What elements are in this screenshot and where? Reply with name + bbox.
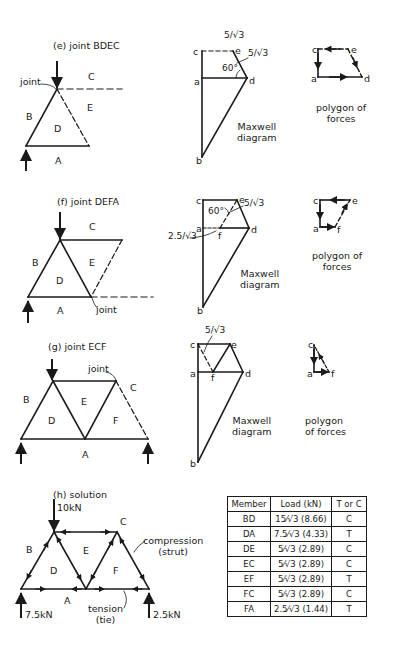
polygon-e-point-d: d	[364, 74, 370, 84]
maxwell-g-value-top: 5/√3	[205, 326, 225, 335]
space-label-d-g: D	[48, 416, 55, 426]
maxwell-f	[190, 200, 249, 307]
cell-member: BD	[228, 512, 271, 527]
maxwell-g-point-c: c	[190, 340, 195, 350]
cell-member: DA	[228, 527, 271, 542]
maxwell-f-point-c: c	[196, 196, 201, 206]
polygon-g	[314, 345, 329, 372]
maxwell-f-point-b: b	[197, 306, 203, 316]
space-label-d-f: D	[56, 276, 63, 286]
space-label-b-f: B	[32, 258, 39, 268]
table-row: DA 7.5⁄√3 (4.33) T	[228, 527, 367, 542]
table-row: FA 2.5⁄√3 (1.44) T	[228, 602, 367, 617]
reaction-right-label: 2.5kN	[153, 610, 181, 620]
polygon-f-point-c: c	[313, 196, 318, 206]
maxwell-e-angle: 60°	[222, 64, 238, 73]
space-label-c-e: C	[88, 72, 95, 82]
polygon-e-point-e: e	[351, 45, 357, 55]
space-label-a-h: A	[64, 596, 71, 606]
load-label-top: 10kN	[57, 503, 82, 513]
space-label-a-f: A	[57, 306, 64, 316]
maxwell-f-caption: Maxwell diagram	[240, 268, 280, 291]
space-label-d-e: D	[54, 124, 61, 134]
table-header-row: Member Load (kN) T or C	[228, 497, 367, 512]
space-label-a-e: A	[55, 156, 62, 166]
maxwell-f-value-right: 5/√3	[244, 199, 264, 208]
cell-load: 5⁄√3 (2.89)	[271, 557, 332, 572]
truss-h	[21, 500, 149, 617]
space-label-f-h: F	[113, 566, 118, 576]
space-label-c-h: C	[120, 517, 127, 527]
table-row: BD 15⁄√3 (8.66) C	[228, 512, 367, 527]
maxwell-e-point-d: d	[249, 76, 255, 86]
maxwell-g-point-a: a	[190, 369, 196, 379]
cell-member: DE	[228, 542, 271, 557]
space-label-e-f: E	[89, 258, 95, 268]
polygon-g-caption: polygon of forces	[305, 415, 346, 438]
reaction-left-label: 7.5kN	[25, 610, 53, 620]
cell-type: T	[332, 527, 367, 542]
cell-load: 15⁄√3 (8.66)	[271, 512, 332, 527]
maxwell-e-value-top: 5/√3	[224, 31, 244, 40]
maxwell-g	[198, 336, 243, 462]
maxwell-e-point-a: a	[194, 77, 200, 87]
maxwell-g-caption: Maxwell diagram	[232, 415, 272, 438]
maxwell-g-point-e: e	[231, 340, 237, 350]
space-label-c-f: C	[89, 222, 96, 232]
maxwell-e-point-e: e	[235, 46, 241, 56]
table-row: EC 5⁄√3 (2.89) C	[228, 557, 367, 572]
space-label-d-h: D	[50, 566, 57, 576]
polygon-f-point-f: f	[337, 225, 340, 235]
space-label-a-g: A	[82, 450, 89, 460]
polygon-f	[320, 200, 350, 227]
table-row: DE 5⁄√3 (2.89) C	[228, 542, 367, 557]
polygon-f-point-a: a	[313, 224, 319, 234]
space-label-e-h: E	[83, 546, 89, 556]
section-f-title: (f) joint DEFA	[57, 197, 119, 207]
maxwell-f-point-d: d	[251, 225, 257, 235]
polygon-f-caption: polygon of forces	[312, 250, 362, 273]
polygon-e-point-c: c	[312, 45, 317, 55]
maxwell-f-point-f: f	[218, 231, 221, 241]
maxwell-e-point-b: b	[196, 156, 202, 166]
section-h-title: (h) solution	[53, 490, 107, 500]
header-member: Member	[228, 497, 271, 512]
space-label-e-g: E	[81, 397, 87, 407]
maxwell-g-point-d: d	[245, 369, 251, 379]
cell-member: FA	[228, 602, 271, 617]
table-row: EF 5⁄√3 (2.89) T	[228, 572, 367, 587]
maxwell-e-value-side: 5/√3	[248, 49, 268, 58]
polygon-g-point-a: a	[307, 369, 313, 379]
cell-member: EF	[228, 572, 271, 587]
table-row: FC 5⁄√3 (2.89) C	[228, 587, 367, 602]
cell-type: C	[332, 587, 367, 602]
polygon-g-point-c: c	[308, 340, 313, 350]
space-label-e-e: E	[87, 103, 93, 113]
space-label-b-e: B	[26, 112, 33, 122]
cell-type: T	[332, 602, 367, 617]
section-e-title: (e) joint BDEC	[53, 41, 120, 51]
maxwell-f-point-a: a	[196, 224, 202, 234]
header-load: Load (kN)	[271, 497, 332, 512]
maxwell-f-angle: 60°	[208, 207, 224, 216]
polygon-g-point-f: f	[331, 369, 334, 379]
section-g-title: (g) joint ECF	[48, 342, 106, 352]
space-label-f-g: F	[113, 416, 118, 426]
space-label-b-g: B	[23, 395, 30, 405]
cell-load: 5⁄√3 (2.89)	[271, 587, 332, 602]
truss-g	[21, 360, 148, 463]
cell-load: 5⁄√3 (2.89)	[271, 542, 332, 557]
cell-member: FC	[228, 587, 271, 602]
cell-load: 7.5⁄√3 (4.33)	[271, 527, 332, 542]
maxwell-g-point-b: b	[190, 459, 196, 469]
maxwell-f-value-left: 2.5/√3	[168, 232, 197, 241]
cell-type: C	[332, 557, 367, 572]
joint-label-f: joint	[96, 305, 117, 315]
polygon-e-caption: polygon of forces	[316, 102, 366, 125]
cell-type: C	[332, 542, 367, 557]
tension-annotation: tension (tie)	[88, 603, 123, 626]
joint-label-g: joint	[88, 364, 109, 374]
space-label-b-h: B	[26, 545, 33, 555]
cell-member: EC	[228, 557, 271, 572]
cell-load: 2.5⁄√3 (1.44)	[271, 602, 332, 617]
